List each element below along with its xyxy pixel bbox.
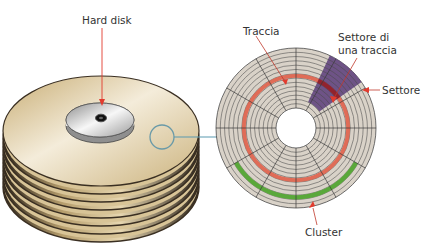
disk-surface — [216, 48, 376, 208]
cluster-label: Cluster — [305, 226, 342, 238]
track-label: Traccia — [243, 25, 280, 37]
spindle-hub — [66, 103, 134, 143]
center-hole — [276, 108, 316, 148]
platter-stack — [3, 76, 222, 242]
track-sector-label-line1: Settore di — [338, 31, 389, 43]
hard-disk-label: Hard disk — [82, 14, 132, 26]
sector-label: Settore — [382, 84, 420, 96]
track-sector-label-line2: una traccia — [338, 44, 397, 56]
